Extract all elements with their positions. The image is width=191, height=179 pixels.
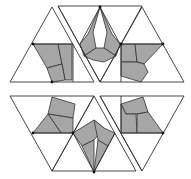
bottom-mid-shape-c <box>82 140 94 172</box>
dot-5 <box>162 43 165 46</box>
dot-9 <box>162 132 165 135</box>
bottom-mid-shape-b <box>94 120 115 146</box>
dot-3 <box>99 6 102 9</box>
hexagon-puzzle-diagram <box>0 0 191 179</box>
dot-1 <box>32 43 35 46</box>
diagram-canvas <box>0 0 191 179</box>
dot-7 <box>72 132 75 135</box>
top-right-shape-c <box>121 62 148 82</box>
shaded-pieces <box>33 7 163 172</box>
top-left-shape-a <box>33 44 62 68</box>
top-right-shape-a <box>121 44 137 62</box>
dot-2 <box>51 81 54 84</box>
dot-6 <box>32 132 35 135</box>
top-right-shape-b <box>135 44 163 64</box>
dot-8 <box>93 171 96 174</box>
bottom-right-shape-c <box>137 112 163 133</box>
dot-4 <box>120 43 123 46</box>
